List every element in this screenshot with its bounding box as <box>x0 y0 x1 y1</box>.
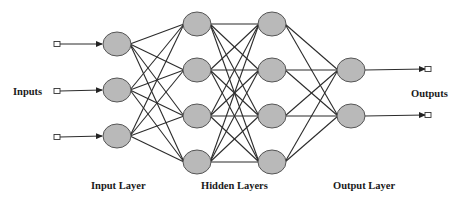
input-terminal-box <box>54 89 60 94</box>
connection-edge <box>285 24 338 70</box>
connection-edges <box>130 24 338 162</box>
hidden-1-node-2 <box>183 58 211 82</box>
output-node-2 <box>337 104 365 128</box>
output-layer-label: Output Layer <box>333 180 395 191</box>
output-arrow <box>365 69 425 70</box>
hidden-1-node-3 <box>183 104 211 128</box>
input-node-1 <box>103 32 131 56</box>
input-terminal-box <box>54 42 60 47</box>
hidden-layers-label: Hidden Layers <box>201 180 268 191</box>
input-node-3 <box>103 124 131 148</box>
hidden-1-node-4 <box>183 150 211 174</box>
hidden-2-node-3 <box>258 104 286 128</box>
output-node-1 <box>337 58 365 82</box>
outputs-label: Outputs <box>411 88 448 99</box>
output-terminal-box <box>425 113 431 118</box>
output-terminal-box <box>425 67 431 72</box>
hidden-1-node-1 <box>183 12 211 36</box>
input-terminal-box <box>54 135 60 140</box>
hidden-2-node-1 <box>258 12 286 36</box>
input-layer-label: Input Layer <box>91 180 146 191</box>
connection-edge <box>130 136 184 162</box>
neural-network-diagram: Inputs Outputs Input Layer Hidden Layers… <box>0 0 464 201</box>
input-node-2 <box>103 78 131 102</box>
inputs-label: Inputs <box>13 86 42 97</box>
output-arrow <box>365 115 425 116</box>
input-arrow <box>60 136 102 137</box>
hidden-2-node-2 <box>258 58 286 82</box>
input-arrow <box>60 90 102 91</box>
connection-edge <box>285 116 338 162</box>
hidden-2-node-4 <box>258 150 286 174</box>
